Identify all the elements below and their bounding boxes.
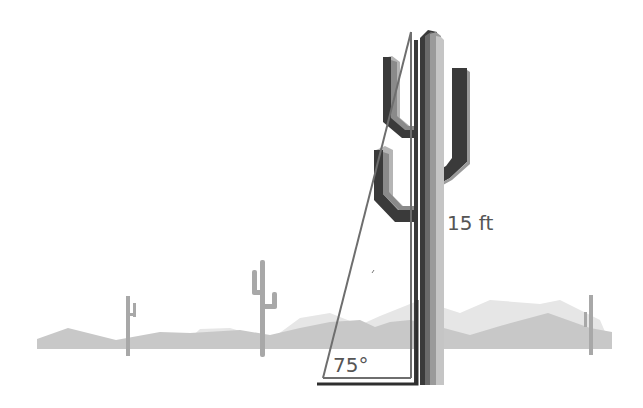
angle-label: 75° [333, 353, 368, 377]
cactus-triangle-diagram: 75° 15 ft [0, 0, 643, 408]
height-label: 15 ft [447, 211, 493, 235]
stray-mark [372, 270, 374, 273]
